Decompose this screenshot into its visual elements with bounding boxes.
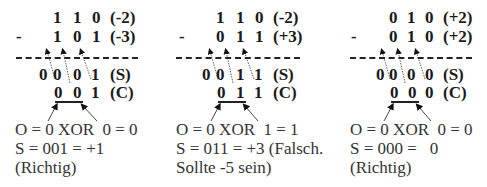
- verdict-text: Sollte -5 sein): [176, 159, 271, 176]
- overflow-formula: O = 0 XOR 1 = 1: [176, 121, 299, 138]
- overflow-formula: O = 0 XOR 0 = 0: [15, 121, 138, 138]
- result-formula: S = 011 = +3 (Falsch.: [176, 140, 323, 157]
- subtraction-panel-3: 0 1 0 (+2) - 0 1 0 (+2) 0 0 0 0 (S) 0 0 …: [325, 0, 487, 187]
- overflow-formula: O = 0 XOR 0 = 0: [350, 121, 473, 138]
- subtraction-panel-1: 1 1 0 (-2) - 1 0 1 (-3) 0 0 0 1 (S) 0 0 …: [0, 0, 165, 187]
- verdict-text: (Richtig): [350, 159, 411, 176]
- result-formula: S = 001 = +1: [15, 140, 104, 157]
- verdict-text: (Richtig): [15, 159, 76, 176]
- result-formula: S = 000 = 0: [350, 140, 438, 157]
- subtraction-panel-2: 1 1 0 (-2) - 0 1 1 (+3) 0 0 1 1 (S) 0 1 …: [163, 0, 328, 187]
